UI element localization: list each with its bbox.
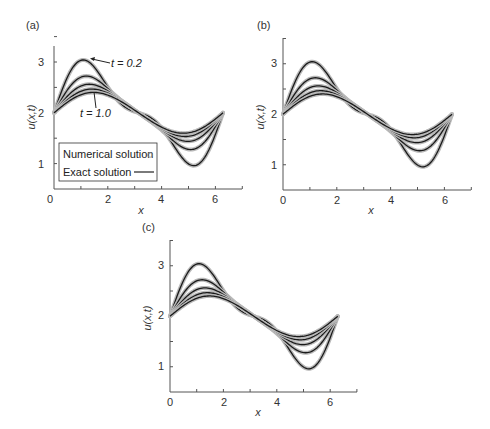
annotation-t-bottom: t = 1.0: [80, 107, 112, 119]
x-tick-4: 4: [388, 194, 394, 206]
panel-b-curves: [283, 62, 452, 167]
arrowhead-icon: [90, 57, 95, 61]
y-tick-3: 3: [38, 56, 44, 68]
x-tick-2: 2: [105, 193, 111, 205]
panel-c-label: (c): [142, 221, 155, 233]
y-tick-3: 3: [271, 57, 277, 69]
panel-a-label: (a): [26, 19, 39, 31]
x-axis-label: x: [367, 204, 374, 216]
x-tick-6: 6: [442, 194, 448, 206]
y-axis-label: u(x,t): [254, 104, 266, 129]
annotation-arrow-t02: [92, 59, 110, 63]
y-tick-2: 2: [158, 309, 164, 321]
x-tick-0: 0: [47, 193, 53, 205]
x-tick-4: 4: [158, 193, 164, 205]
figure: (a) 0 2 4 6 1 2 3 x u(x,t) t = 0.2 t = 1…: [0, 0, 490, 429]
y-axis-label: u(x,t): [25, 104, 37, 129]
x-tick-6: 6: [327, 396, 333, 408]
panel-c: (c) 0 2 4 6 1 2 3 x u(x,t): [141, 221, 357, 418]
y-tick-1: 1: [158, 360, 164, 372]
y-tick-3: 3: [158, 259, 164, 271]
legend: Numerical solution Exact solution: [59, 143, 157, 181]
panel-b-label: (b): [257, 19, 270, 31]
x-axis-label: x: [254, 406, 261, 418]
x-tick-2: 2: [221, 396, 227, 408]
panel-b: (b) 0 2 4 6 1 2 3 x u(x,t): [254, 19, 471, 216]
y-axis-label: u(x,t): [141, 305, 153, 330]
panel-c-curves: [170, 264, 338, 369]
y-tick-1: 1: [271, 159, 277, 171]
x-tick-6: 6: [212, 193, 218, 205]
legend-exact-label: Exact solution: [63, 166, 131, 178]
x-tick-4: 4: [274, 396, 280, 408]
annotation-t-top: t = 0.2: [111, 57, 142, 69]
x-tick-2: 2: [334, 194, 340, 206]
y-tick-1: 1: [38, 158, 44, 170]
y-tick-2: 2: [38, 107, 44, 119]
y-tick-2: 2: [271, 108, 277, 120]
legend-numerical-label: Numerical solution: [63, 148, 153, 160]
x-axis-label: x: [137, 204, 144, 216]
x-tick-0: 0: [280, 194, 286, 206]
x-tick-0: 0: [167, 396, 173, 408]
panel-a: (a) 0 2 4 6 1 2 3 x u(x,t) t = 0.2 t = 1…: [25, 19, 242, 216]
